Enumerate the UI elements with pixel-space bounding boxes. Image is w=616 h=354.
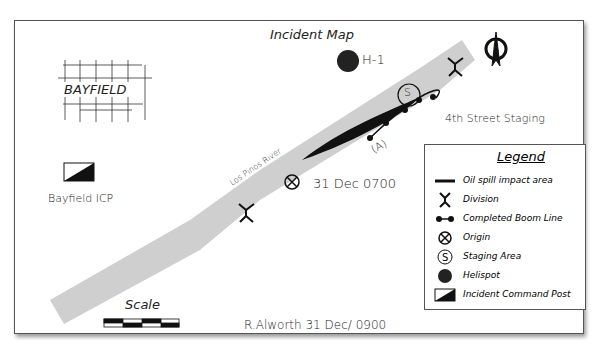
oil-spill-line-icon	[433, 172, 457, 190]
helispot-label: H-1	[362, 52, 385, 67]
boom-line-icon	[433, 210, 457, 228]
helispot-icon	[433, 267, 457, 285]
legend-item: Completed Boom Line	[425, 210, 585, 228]
scale-bar	[104, 319, 179, 327]
town-label: BAYFIELD	[62, 82, 129, 97]
icp-label: Bayfield ICP	[48, 192, 113, 205]
north-label: N	[493, 43, 498, 51]
legend-item: Division	[425, 191, 585, 209]
legend-item: Oil spill impact area	[425, 172, 585, 190]
legend: Legend Oil spill impact area Division Co…	[424, 144, 586, 310]
legend-item: Incident Command Post	[425, 286, 585, 304]
staging-symbol: S	[404, 86, 411, 99]
scale-label: Scale	[125, 297, 160, 312]
svg-text:S: S	[442, 252, 448, 263]
icp-icon	[433, 286, 457, 304]
staging-label: 4th Street Staging	[445, 112, 545, 125]
legend-item: S Staging Area	[425, 248, 585, 266]
footer-author: R.Alworth 31 Dec/ 0900	[244, 318, 386, 332]
staging-icon: S	[433, 248, 457, 266]
legend-item: Origin	[425, 229, 585, 247]
map-title: Incident Map	[270, 27, 354, 42]
origin-label: 31 Dec 0700	[313, 176, 396, 191]
division-icon	[433, 191, 457, 209]
origin-icon	[433, 229, 457, 247]
legend-item: Helispot	[425, 267, 585, 285]
helispot-icon	[337, 50, 359, 72]
icp-icon	[64, 163, 94, 181]
legend-title: Legend	[497, 149, 545, 164]
